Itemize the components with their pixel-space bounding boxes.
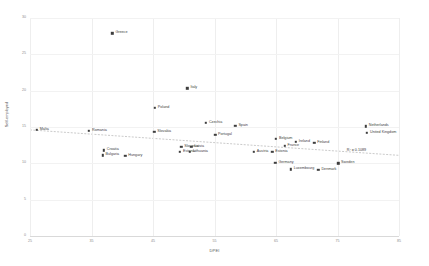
data-point-label: Romania [92, 129, 107, 133]
data-point [190, 145, 192, 147]
data-point [365, 125, 367, 127]
y-axis-tick-label: 20 [12, 89, 26, 93]
data-point [214, 134, 216, 136]
data-point-label: Greece [115, 31, 127, 35]
y-axis-tick-label: 5 [12, 198, 26, 202]
data-point-label: Netherlands [369, 124, 389, 128]
data-point-label: Belgium [279, 137, 292, 141]
y-axis-tick-label: 25 [12, 52, 26, 56]
gridline-horizontal [30, 18, 399, 19]
data-point-label: Portugal [218, 133, 232, 137]
x-axis-tick-label: 75 [336, 240, 340, 244]
data-point [189, 151, 191, 153]
data-point [313, 142, 315, 144]
data-point [101, 154, 103, 156]
data-point [124, 155, 126, 157]
data-point-label: Sweden [341, 161, 354, 165]
data-point [253, 151, 255, 153]
data-point [36, 129, 38, 131]
y-axis-title: Self-employed [4, 83, 9, 147]
x-axis-tick-label: 85 [397, 240, 401, 244]
data-point-label: Luxembourg [294, 167, 315, 171]
data-point-label: Estonia [275, 150, 287, 154]
data-point-label: Malta [40, 128, 49, 132]
x-axis-tick-label: 45 [151, 240, 155, 244]
data-point [205, 121, 207, 123]
data-point [283, 145, 285, 147]
data-point-label: Finland [317, 141, 329, 145]
gridline-horizontal [30, 91, 399, 92]
data-point-label: United Kingdom [370, 131, 396, 135]
data-point-label: Hungary [128, 154, 142, 158]
plot-area: GreeceItalyPolandCzechiaSpainNetherlands… [30, 18, 399, 236]
y-axis-tick-label: 15 [12, 125, 26, 129]
data-point-label: Slovakia [157, 130, 171, 134]
data-point [103, 149, 105, 151]
data-point [88, 129, 90, 131]
data-point [274, 161, 276, 163]
data-point [179, 151, 181, 153]
x-axis-title: DPEI [0, 248, 429, 253]
data-point [275, 137, 277, 139]
data-point-label: Ireland [299, 140, 310, 144]
y-axis-tick-label: 10 [12, 161, 26, 165]
data-point-label: Germany [278, 161, 293, 165]
data-point-label: Lithuania [193, 150, 208, 154]
data-point-label: France [288, 144, 299, 148]
data-point [111, 32, 113, 34]
x-axis-tick-label: 65 [274, 240, 278, 244]
x-axis-line [30, 236, 399, 237]
data-point [317, 169, 319, 171]
gridline-horizontal [30, 127, 399, 128]
data-point-label: Italy [190, 87, 197, 91]
data-point [290, 168, 292, 170]
x-axis-tick-label: 25 [28, 240, 32, 244]
data-point [186, 87, 188, 89]
data-point [234, 124, 236, 126]
gridline-horizontal [30, 54, 399, 55]
data-point-label: Spain [238, 124, 247, 128]
data-point-label: Bulgaria [106, 153, 120, 157]
data-point [180, 145, 182, 147]
data-point-label: Poland [158, 106, 169, 110]
gridline-horizontal [30, 200, 399, 201]
y-axis-tick-label: 0 [12, 234, 26, 238]
scatter-chart: GreeceItalyPolandCzechiaSpainNetherlands… [0, 0, 429, 266]
x-axis-tick-label: 55 [213, 240, 217, 244]
data-point [153, 131, 155, 133]
data-point [271, 151, 273, 153]
data-point [366, 132, 368, 134]
y-axis-tick-label: 30 [12, 16, 26, 20]
x-axis-tick-label: 35 [90, 240, 94, 244]
data-point-label: Austria [257, 150, 268, 154]
data-point [337, 162, 339, 164]
data-point [154, 107, 156, 109]
data-point-label: Czechia [209, 121, 222, 125]
gridline-vertical [399, 18, 400, 236]
data-point-label: Denmark [321, 168, 336, 172]
r-squared-annotation: R² = 0.1089 [347, 149, 366, 153]
